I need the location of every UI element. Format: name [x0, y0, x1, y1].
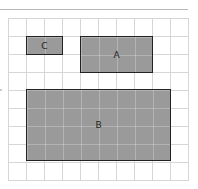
rectangle-a-label: A — [113, 50, 119, 60]
top-divider — [0, 9, 188, 10]
rectangle-c: C — [26, 36, 63, 55]
rectangle-b-label: B — [95, 120, 101, 130]
margin-mark — [0, 89, 2, 91]
rectangle-a: A — [80, 36, 153, 73]
rectangle-b: B — [26, 89, 171, 161]
rectangle-c-label: C — [41, 41, 47, 51]
